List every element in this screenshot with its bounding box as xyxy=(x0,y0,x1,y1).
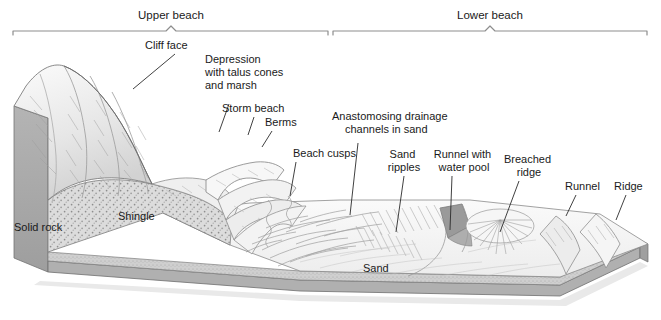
label-anastomosing-drainage-channels: Anastomosing drainage channels in sand xyxy=(332,110,451,135)
label-beach-cusps: Beach cusps xyxy=(293,147,356,159)
bracket-label-lower-beach: Lower beach xyxy=(457,9,523,21)
label-sand-ripples: Sand ripples xyxy=(388,148,421,173)
bracket-lower-beach: Lower beach xyxy=(333,9,647,35)
label-solid-rock: Solid rock xyxy=(14,221,63,233)
label-runnel-with-water-pool: Runnel with water pool xyxy=(434,148,495,173)
label-berms: Berms xyxy=(265,116,297,128)
label-depression: Depression with talus cones and marsh xyxy=(204,53,286,91)
label-runnel: Runnel xyxy=(565,180,600,192)
leader-berms xyxy=(262,131,272,147)
beach-profile-diagram: Upper beach Lower beach xyxy=(0,0,661,320)
bracket-upper-beach: Upper beach xyxy=(13,9,328,35)
diagram-canvas: Upper beach Lower beach xyxy=(0,0,661,320)
label-breached-ridge: Breached ridge xyxy=(504,153,554,178)
leader-cliff-face xyxy=(133,54,175,89)
label-ridge: Ridge xyxy=(614,180,643,192)
label-shingle: Shingle xyxy=(118,210,155,222)
label-storm-beach: Storm beach xyxy=(222,102,284,114)
bracket-label-upper-beach: Upper beach xyxy=(138,9,204,21)
label-cliff-face: Cliff face xyxy=(145,39,188,51)
label-sand: Sand xyxy=(363,262,389,274)
leader-ridge xyxy=(616,195,626,220)
leader-storm-beach xyxy=(248,117,254,135)
bracket-group: Upper beach Lower beach xyxy=(13,9,647,35)
